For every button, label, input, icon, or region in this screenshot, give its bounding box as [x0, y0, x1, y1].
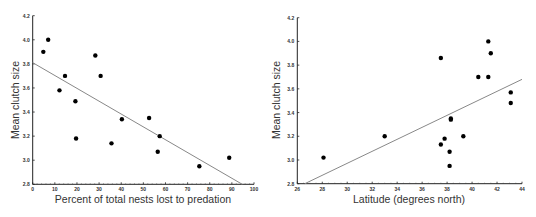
- regression-line: [305, 79, 522, 183]
- y-tick-label: 3.6: [23, 85, 30, 91]
- x-tick-label: 40: [469, 186, 475, 192]
- x-tick-label: 100: [250, 186, 259, 192]
- y-tick-label: 3.4: [287, 110, 294, 116]
- data-point: [74, 136, 78, 140]
- data-point: [461, 134, 465, 138]
- data-point: [439, 56, 443, 60]
- x-tick-label: 80: [207, 186, 213, 192]
- data-point: [63, 74, 67, 78]
- y-tick-label: 4.2: [287, 15, 294, 21]
- x-tick-label: 0: [31, 186, 34, 192]
- x-tick-label: 38: [444, 186, 450, 192]
- x-axis-label: Percent of total nests lost to predation: [55, 193, 231, 205]
- regression-line: [33, 63, 243, 185]
- data-point: [197, 164, 201, 168]
- x-tick-label: 50: [141, 186, 147, 192]
- y-tick-label: 3.6: [287, 86, 294, 92]
- data-point: [98, 74, 102, 78]
- data-point: [93, 53, 97, 57]
- data-point: [46, 38, 50, 42]
- data-point: [509, 101, 513, 105]
- y-tick-label: 3.8: [23, 61, 30, 67]
- x-tick-label: 32: [369, 186, 375, 192]
- predation-chart: Percent of total nests lost to predation…: [9, 13, 258, 205]
- data-point: [227, 156, 231, 160]
- x-tick-label: 30: [96, 186, 102, 192]
- data-point: [447, 149, 451, 153]
- x-tick-label: 10: [52, 186, 58, 192]
- data-point: [486, 39, 490, 43]
- data-point: [509, 90, 513, 94]
- x-tick-label: 20: [74, 186, 80, 192]
- y-tick-label: 2.8: [287, 181, 294, 187]
- data-point: [57, 88, 61, 92]
- x-tick-label: 42: [494, 186, 500, 192]
- y-tick-label: 3.4: [23, 109, 30, 115]
- x-tick-label: 30: [344, 186, 350, 192]
- x-tick-label: 44: [519, 186, 525, 192]
- data-point: [442, 136, 446, 140]
- x-tick-label: 26: [295, 186, 301, 192]
- data-point: [156, 150, 160, 154]
- y-tick-label: 4.2: [23, 13, 30, 19]
- chart-figure: Percent of total nests lost to predation…: [0, 0, 536, 217]
- y-tick-label: 3.8: [287, 62, 294, 68]
- data-point: [382, 134, 386, 138]
- data-point: [489, 51, 493, 55]
- x-tick-label: 28: [319, 186, 325, 192]
- data-point: [120, 117, 124, 121]
- y-axis-label: Mean clutch size: [9, 61, 21, 139]
- y-tick-label: 4.0: [23, 37, 30, 43]
- y-tick-label: 3.2: [23, 133, 30, 139]
- y-axis-label: Mean clutch size: [270, 61, 282, 139]
- data-point: [73, 99, 77, 103]
- x-tick-label: 36: [419, 186, 425, 192]
- x-tick-label: 40: [118, 186, 124, 192]
- data-point: [158, 134, 162, 138]
- data-point: [109, 141, 113, 145]
- y-tick-label: 3.0: [287, 157, 294, 163]
- y-tick-label: 2.8: [23, 181, 30, 187]
- y-tick-label: 3.2: [287, 133, 294, 139]
- y-tick-label: 3.0: [23, 157, 30, 163]
- data-point: [476, 75, 480, 79]
- latitude-chart: Latitude (degrees north) Mean clutch siz…: [270, 15, 525, 205]
- x-axis-label: Latitude (degrees north): [353, 193, 465, 205]
- data-point: [486, 75, 490, 79]
- x-tick-label: 70: [185, 186, 191, 192]
- data-point: [449, 116, 453, 120]
- data-point: [447, 164, 451, 168]
- data-point: [41, 50, 45, 54]
- x-tick-label: 34: [394, 186, 400, 192]
- data-point: [147, 116, 151, 120]
- data-point: [439, 142, 443, 146]
- y-tick-label: 4.0: [287, 38, 294, 44]
- x-tick-label: 60: [163, 186, 169, 192]
- x-tick-label: 90: [229, 186, 235, 192]
- data-point: [321, 155, 325, 159]
